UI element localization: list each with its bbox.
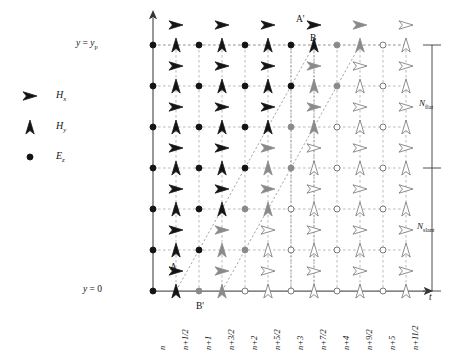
ez-node xyxy=(150,247,156,253)
x-tick-label: n+3/2 xyxy=(226,329,236,350)
x-tick-label: n+2 xyxy=(249,336,259,350)
bracket-label-nslant: Nslant xyxy=(417,222,435,233)
x-tick-label: n+4 xyxy=(341,336,351,350)
ez-node xyxy=(288,124,294,130)
legend-item-e-z: Ez xyxy=(56,151,65,164)
point-label-bprime: B' xyxy=(196,301,204,311)
ez-node xyxy=(334,124,340,130)
hx-arrow xyxy=(261,62,275,70)
hy-arrow xyxy=(310,243,318,257)
ez-node xyxy=(288,165,294,171)
hy-arrow xyxy=(356,161,364,175)
hx-arrow xyxy=(169,21,183,29)
hx-arrow xyxy=(169,103,183,111)
hy-arrow xyxy=(310,161,318,175)
hx-arrow xyxy=(261,21,275,29)
ez-node xyxy=(380,42,386,48)
hx-arrow xyxy=(399,267,413,275)
axis-label-y-zero: y = 0 xyxy=(83,285,102,295)
legend-hy-arrow xyxy=(26,120,34,134)
ez-node xyxy=(150,165,156,171)
hy-arrow xyxy=(356,202,364,216)
point-label-a: A xyxy=(170,262,177,272)
point-label-b: B xyxy=(310,33,316,43)
ez-node xyxy=(242,247,248,253)
ez-node xyxy=(242,42,248,48)
ez-node xyxy=(196,124,202,130)
hx-arrow xyxy=(353,103,367,111)
ez-node xyxy=(288,83,294,89)
ez-node xyxy=(150,124,156,130)
ez-node xyxy=(150,288,156,294)
ez-node xyxy=(380,206,386,212)
hx-arrow xyxy=(215,267,229,275)
hx-arrow xyxy=(307,21,321,29)
ez-node xyxy=(334,83,340,89)
measure-brackets xyxy=(423,45,441,291)
axis-label-y: y = yp xyxy=(76,39,98,50)
hx-arrow xyxy=(353,21,367,29)
ez-node xyxy=(334,288,340,294)
hx-arrow xyxy=(169,62,183,70)
hy-arrow xyxy=(356,243,364,257)
ez-node xyxy=(150,42,156,48)
ez-node xyxy=(380,247,386,253)
ez-node xyxy=(380,83,386,89)
ez-node xyxy=(334,247,340,253)
legend-hx-arrow xyxy=(23,92,37,100)
hx-arrow xyxy=(215,62,229,70)
hx-arrow xyxy=(399,21,413,29)
field-symbol-layer xyxy=(150,21,413,298)
ez-node xyxy=(242,124,248,130)
x-tick-label: n+1 xyxy=(203,336,213,350)
ez-node xyxy=(196,165,202,171)
ez-node xyxy=(242,83,248,89)
legend-symbol-subscript: y xyxy=(63,126,66,133)
ez-node xyxy=(196,247,202,253)
figure-canvas: y = yp y = 0 t Nflat Nslant AA'BB' nn+1/… xyxy=(0,0,457,354)
x-tick-label: n+5 xyxy=(387,336,397,350)
ez-node xyxy=(242,165,248,171)
ez-node xyxy=(196,83,202,89)
hx-arrow xyxy=(261,267,275,275)
ez-node xyxy=(242,288,248,294)
ez-node xyxy=(380,124,386,130)
ez-node xyxy=(288,288,294,294)
x-tick-label: n+1/2 xyxy=(180,329,190,350)
diagram-svg xyxy=(0,0,457,354)
hy-arrow xyxy=(356,38,364,52)
ez-node xyxy=(196,42,202,48)
x-tick-label: n+7/2 xyxy=(318,329,328,350)
legend-item-h-x: Hx xyxy=(56,90,66,103)
ez-node xyxy=(196,206,202,212)
ez-node xyxy=(334,165,340,171)
hx-arrow xyxy=(215,103,229,111)
ez-node xyxy=(150,206,156,212)
legend-item-h-y: Hy xyxy=(56,121,66,134)
ez-node xyxy=(334,206,340,212)
ez-node xyxy=(288,42,294,48)
ez-node xyxy=(242,206,248,212)
ez-node xyxy=(380,165,386,171)
hx-arrow xyxy=(399,103,413,111)
bracket-label-nflat: Nflat xyxy=(419,99,433,110)
ez-node xyxy=(288,206,294,212)
grid-lines xyxy=(153,45,406,291)
ez-node xyxy=(334,42,340,48)
x-tick-label: n+11/2 xyxy=(410,326,420,350)
ez-node xyxy=(196,288,202,294)
hx-arrow xyxy=(353,267,367,275)
x-tick-label: n xyxy=(157,346,167,350)
x-tick-label: n+5/2 xyxy=(272,329,282,350)
hx-arrow xyxy=(215,21,229,29)
legend-ez-dot xyxy=(27,154,33,160)
axis-label-t: t xyxy=(429,293,432,303)
legend-symbol-subscript: z xyxy=(62,156,65,163)
ez-node xyxy=(380,288,386,294)
ez-node xyxy=(150,83,156,89)
legend-symbol-subscript: x xyxy=(63,95,66,102)
point-label-aprime: A' xyxy=(296,14,305,24)
ez-node xyxy=(288,247,294,253)
hx-arrow xyxy=(353,62,367,70)
hy-arrow xyxy=(310,202,318,216)
